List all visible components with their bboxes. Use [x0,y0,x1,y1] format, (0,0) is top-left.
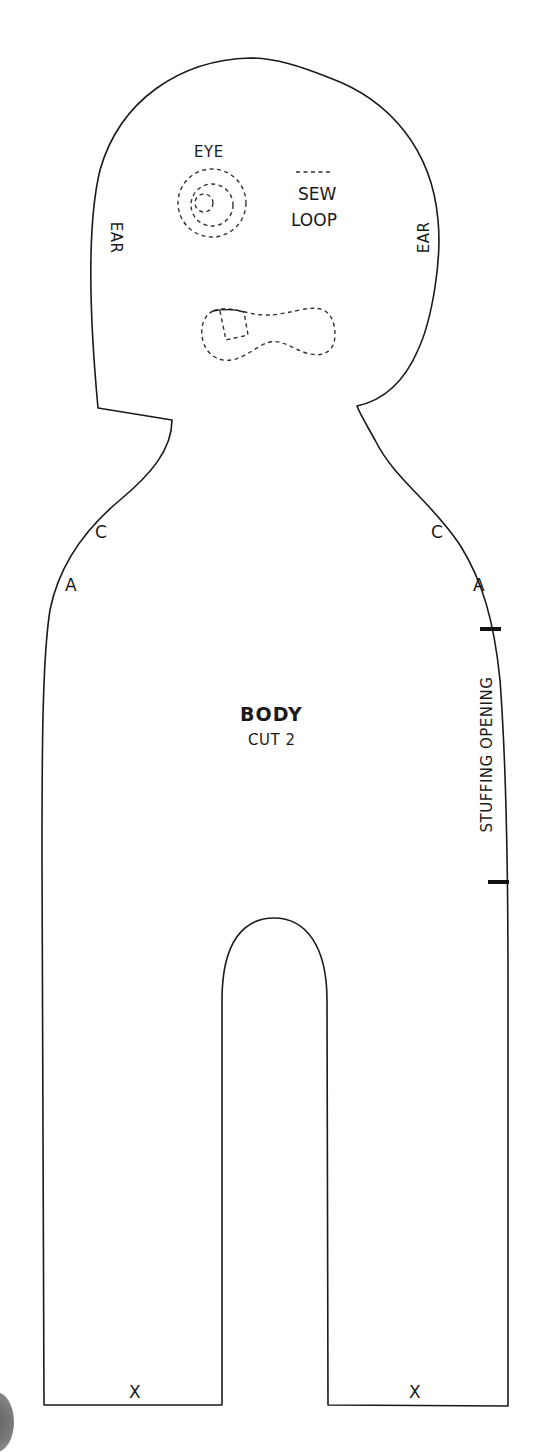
notch-a-right-label: A [473,577,485,594]
eye-label: EYE [194,145,224,160]
sew-loop-label-line2: LOOP [291,212,337,229]
hem-x-right-label: X [409,1384,421,1401]
ear-left-label: EAR [108,222,123,254]
sew-loop-label-line1: SEW [298,186,336,203]
piece-name-title: BODY [240,705,303,724]
notch-c-right-label: C [431,524,443,541]
stuffing-opening-label: STUFFING OPENING [480,683,495,833]
notch-c-left-label: C [95,524,107,541]
cut-instruction-label: CUT 2 [248,733,295,748]
ear-right-label: EAR [417,222,432,254]
notch-a-left-label: A [65,577,77,594]
hem-x-left-label: X [129,1384,141,1401]
